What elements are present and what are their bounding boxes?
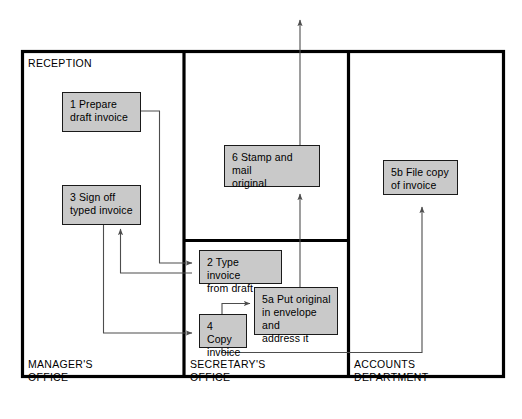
zone-label-accounts-department: ACCOUNTS DEPARTMENT [354,358,428,384]
flowchart-canvas: RECEPTION MANAGER'S OFFICE SECRETARY'S O… [0,0,522,419]
zone-label-reception: RECEPTION [28,57,92,70]
zone-label-secretarys-office: SECRETARY'S OFFICE [190,358,266,384]
connector-step3-to-step4 [104,222,193,333]
process-box-step-4[interactable]: 4 Copy invoice [199,314,247,348]
zone-label-managers-office: MANAGER'S OFFICE [28,358,93,384]
process-box-step-6[interactable]: 6 Stamp and mail original [224,145,320,187]
process-box-step-5a[interactable]: 5a Put original in envelope and address … [254,287,338,335]
connector-step2-to-step3 [121,229,193,273]
process-box-step-3[interactable]: 3 Sign off typed invoice [62,185,141,225]
process-box-step-1[interactable]: 1 Prepare draft invoice [62,92,141,132]
process-box-step-2[interactable]: 2 Type invoice from draft [199,250,282,284]
process-box-step-5b[interactable]: 5b File copy of invoice [383,160,458,195]
